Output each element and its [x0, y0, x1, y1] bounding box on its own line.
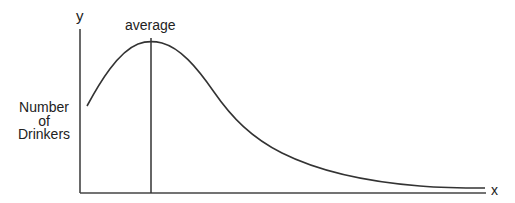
skewed-distribution-chart: y average x Number of Drinkers [0, 0, 515, 203]
average-label: average [125, 18, 176, 32]
y-axis-title: Number of Drinkers [0, 101, 88, 142]
y-axis-label: y [76, 9, 84, 23]
x-axis-label: x [491, 183, 498, 197]
distribution-curve [87, 42, 485, 188]
y-axis-title-line-3: Drinkers [0, 128, 88, 142]
